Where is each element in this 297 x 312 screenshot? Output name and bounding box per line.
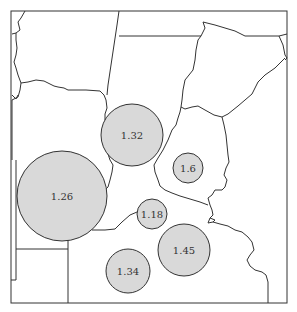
- bubble-label: 1.18: [141, 209, 163, 220]
- bubble-label: 1.6: [180, 163, 196, 174]
- bubbles: 1.32 1.26 1.6 1.18 1.45 1.34: [17, 104, 210, 293]
- bubble-1-34[interactable]: 1.34: [106, 249, 150, 293]
- border-northeast-west: [201, 22, 205, 36]
- bubble-1-18[interactable]: 1.18: [137, 199, 167, 229]
- border-southeast-coast: [208, 218, 268, 303]
- bubble-1-26[interactable]: 1.26: [17, 151, 107, 241]
- border-southwest-box: [16, 240, 68, 303]
- border-northeast-south: [181, 58, 285, 117]
- bubble-1-32[interactable]: 1.32: [101, 104, 163, 166]
- border-northwest-south: [21, 80, 107, 114]
- bubble-1-6[interactable]: 1.6: [173, 153, 203, 183]
- bubble-label: 1.26: [51, 191, 73, 202]
- bubble-label: 1.32: [121, 130, 143, 141]
- border-northeast-north: [203, 22, 287, 36]
- border-east-central: [208, 117, 229, 222]
- border-west-coast: [12, 11, 25, 100]
- bubble-1-45[interactable]: 1.45: [158, 224, 210, 276]
- border-northeast-east: [279, 36, 287, 60]
- border-west-inner: [11, 160, 16, 280]
- map: 1.32 1.26 1.6 1.18 1.45 1.34: [0, 0, 297, 312]
- border-north-central-west: [107, 11, 119, 95]
- bubble-label: 1.34: [117, 266, 139, 277]
- bubble-label: 1.45: [173, 245, 195, 256]
